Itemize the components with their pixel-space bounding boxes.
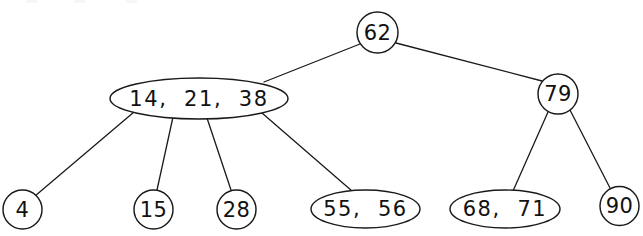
node-leaf-28-label: 28 (223, 198, 251, 222)
edge-internal-left-to-leaf-4 (35, 112, 134, 196)
node-leaf-90-label: 90 (606, 194, 634, 218)
node-leaf-15[interactable]: 15 (134, 190, 173, 229)
node-leaf-28[interactable]: 28 (217, 190, 256, 229)
node-internal-left-label: 14, 21, 38 (129, 87, 268, 111)
node-internal-right-label: 79 (544, 82, 572, 106)
node-leaf-4[interactable]: 4 (3, 190, 42, 229)
edge-root-to-internal-right (396, 43, 542, 81)
scan-artifact-group (26, 0, 137, 3)
tree-diagram-svg: 62 14, 21, 38 79 4 15 28 (0, 0, 643, 236)
edge-group (35, 43, 610, 196)
node-leaf-90[interactable]: 90 (600, 187, 639, 226)
node-root-label: 62 (364, 21, 392, 45)
node-leaf-4-label: 4 (16, 198, 30, 222)
node-leaf-55-56-label: 55, 56 (323, 197, 408, 221)
edge-root-to-internal-left (264, 44, 360, 82)
edge-internal-right-to-leaf-68-71 (513, 112, 548, 191)
node-internal-left[interactable]: 14, 21, 38 (110, 78, 288, 119)
node-leaf-68-71[interactable]: 68, 71 (450, 190, 560, 228)
node-leaf-55-56[interactable]: 55, 56 (311, 190, 420, 228)
node-root[interactable]: 62 (357, 12, 398, 53)
edge-internal-left-to-leaf-15 (157, 117, 173, 190)
tree-diagram-canvas: 62 14, 21, 38 79 4 15 28 (0, 0, 643, 236)
edge-internal-left-to-leaf-55-56 (262, 113, 352, 191)
edge-internal-left-to-leaf-28 (207, 118, 231, 190)
node-leaf-15-label: 15 (140, 198, 168, 222)
edge-internal-right-to-leaf-90 (570, 110, 610, 188)
node-internal-right[interactable]: 79 (538, 74, 578, 114)
node-leaf-68-71-label: 68, 71 (463, 197, 548, 221)
